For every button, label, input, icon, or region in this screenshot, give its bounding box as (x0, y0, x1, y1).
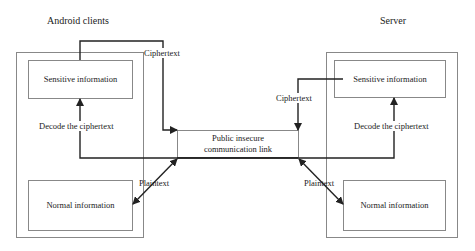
client-title: Android clients (47, 15, 109, 26)
server-normal-label: Normal information (343, 200, 446, 210)
link-label-line2: communication link (177, 144, 299, 154)
server-plaintext-label: Plaintext (304, 178, 334, 188)
client-sensitive-label: Sensitive information (28, 74, 133, 84)
server-title: Server (380, 15, 406, 26)
client-ciphertext-label: Ciphertext (144, 48, 180, 58)
server-decode-label: Decode the ciphertext (354, 121, 429, 131)
server-sensitive-label: Sensitive information (334, 74, 446, 84)
link-label-line1: Public insecure (177, 133, 299, 143)
client-decode-label: Decode the ciphertext (39, 121, 114, 131)
server-ciphertext-label: Ciphertext (276, 93, 312, 103)
client-plaintext-label: Plaintext (139, 178, 169, 188)
client-normal-label: Normal information (28, 200, 133, 210)
server-ciphertext-arrow (298, 79, 343, 130)
